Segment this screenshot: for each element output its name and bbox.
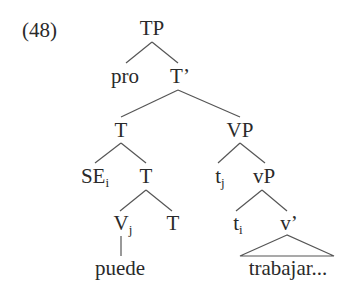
node-v-j: Vj [114,213,133,234]
edge-t-tinner [121,143,146,163]
v-j-index: j [129,222,133,237]
edge-vp-littlevp [240,143,265,163]
node-se: SEi [81,166,109,187]
edge-tinner-tlow [146,190,172,211]
edge-tbar-vp [178,90,240,117]
se-index: i [105,175,109,190]
node-trace-i: ti [233,213,242,234]
tree-edges [0,0,359,296]
edge-tp-tbar [152,42,178,63]
edge-tp-pro [126,42,152,63]
edge-tinner-vj [120,190,146,211]
se-label: SE [81,164,106,188]
terminal-trabajar: trabajar... [249,258,328,279]
example-number: (48) [22,20,57,41]
edge-tbar-t [121,90,178,117]
edge-littlevp-ti [236,190,262,211]
terminal-puede: puede [95,258,145,279]
node-trace-j: tj [215,166,224,187]
node-little-vp: vP [253,166,275,187]
edge-littlevp-vbar [262,190,287,211]
triangle-vbar [240,235,334,256]
node-t: T [115,120,128,141]
trace-j-index: j [221,175,225,190]
node-pro: pro [111,66,139,87]
v-j-label: V [114,211,129,235]
node-t-low: T [167,213,180,234]
trace-i-index: i [239,222,243,237]
node-vp: VP [227,120,254,141]
node-v-bar: v’ [280,213,298,234]
edge-vp-tj [218,143,240,163]
edge-t-se [95,143,121,163]
node-t-inner: T [140,166,153,187]
node-t-bar: T’ [170,66,190,87]
node-tp: TP [140,18,165,39]
